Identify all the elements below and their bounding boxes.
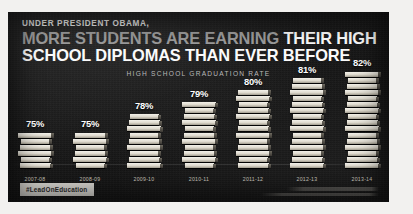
chart-bar: 80%2011-12 [233,80,273,182]
book-icon [290,145,324,150]
book-icon [18,151,52,156]
book-stack [127,113,161,168]
hashtag-badge: #LeadOnEducation [20,183,94,196]
book-icon [347,139,378,144]
book-icon [293,78,322,83]
bar-value-label: 75% [70,118,110,129]
source-line-1 [287,187,379,190]
bar-category-label: 2008-09 [67,176,113,182]
book-icon [127,145,161,150]
book-icon [292,120,323,125]
book-icon [129,157,160,162]
book-stack [345,71,379,169]
headline-white-text-1: THEIR HIGH [283,29,376,47]
book-icon [347,157,378,162]
book-icon [239,157,268,162]
book-icon [184,151,215,156]
book-stack [73,131,107,168]
book-stack [182,101,216,168]
bar-value-label: 81% [287,64,327,75]
book-icon [182,157,216,162]
book-icon [185,145,214,150]
book-icon [293,133,322,138]
source-line-2 [261,193,379,196]
book-icon [185,163,214,168]
headline-block: UNDER PRESIDENT OBAMA, MORE STUDENTS ARE… [22,18,378,65]
book-icon [293,151,322,156]
book-icon [347,102,378,107]
chart-bar: 75%2007-08 [15,80,55,182]
book-icon [348,114,377,119]
book-icon [292,157,323,162]
book-icon [238,108,269,113]
book-icon [76,145,105,150]
bar-value-label: 78% [124,100,164,111]
book-icon [238,163,269,168]
book-icon [345,108,379,113]
chart-bar: 81%2012-13 [287,80,327,182]
book-icon [129,120,160,125]
book-icon [75,151,106,156]
book-icon [238,126,269,131]
book-icon [292,139,323,144]
graduation-rate-chart: 75%2007-0875%2008-0978%2009-1079%2010-11… [8,80,389,182]
book-icon [76,163,105,168]
book-icon [348,133,377,138]
book-stack [18,131,52,168]
chart-bar: 79%2010-11 [179,80,219,182]
book-icon [239,102,268,107]
book-icon [73,139,107,144]
book-icon [236,114,270,119]
book-icon [75,133,106,138]
bar-value-label: 80% [233,76,273,87]
book-icon [290,90,324,95]
bar-value-label: 82% [342,57,382,68]
book-icon [238,145,269,150]
book-icon [345,90,379,95]
book-icon [18,133,52,138]
book-icon [292,84,323,89]
book-icon [345,145,379,150]
book-icon [20,145,51,150]
book-icon [182,120,216,125]
bar-category-label: 2011-12 [230,176,276,182]
kicker-text: UNDER PRESIDENT OBAMA, [22,18,378,29]
book-icon [20,163,51,168]
page-canvas: UNDER PRESIDENT OBAMA, MORE STUDENTS ARE… [0,0,413,214]
bar-category-label: 2013-14 [339,176,385,182]
book-icon [348,96,377,101]
book-icon [292,102,323,107]
headline-line-1: MORE STUDENTS ARE EARNING THEIR HIGH [22,30,378,47]
chart-bar: 78%2009-10 [124,80,164,182]
book-icon [236,133,270,138]
chart-bar: 82%2013-14 [342,80,382,182]
book-icon [127,163,161,168]
book-icon [290,126,324,131]
book-icon [130,133,159,138]
bar-category-label: 2010-11 [176,176,222,182]
chart-subtitle: HIGH SCHOOL GRADUATION RATE [8,70,389,77]
infographic-poster: UNDER PRESIDENT OBAMA, MORE STUDENTS ARE… [8,12,389,202]
book-icon [348,151,377,156]
headline-line-2: SCHOOL DIPLOMAS THAN EVER BEFORE [22,47,378,64]
book-icon [236,151,270,156]
book-icon [130,114,159,119]
bar-value-label: 75% [15,118,55,129]
book-icon [127,126,161,131]
book-stack [236,89,270,168]
book-icon [345,72,379,77]
book-icon [347,120,378,125]
headline-gray-text: MORE STUDENTS ARE EARNING [22,29,279,47]
book-icon [73,157,107,162]
book-icon [182,139,216,144]
book-icon [290,108,324,113]
book-icon [21,139,50,144]
chart-bar: 75%2008-09 [70,80,110,182]
bar-category-label: 2012-13 [284,176,330,182]
book-icon [184,133,215,138]
book-icon [185,126,214,131]
book-icon [182,102,216,107]
book-stack [290,77,324,168]
book-icon [239,120,268,125]
bar-category-label: 2007-08 [12,176,58,182]
